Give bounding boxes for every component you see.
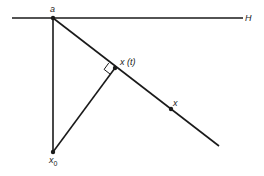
label-xt: x (t) (120, 58, 136, 67)
ray-from-a (53, 18, 219, 146)
label-x0: x0 (49, 156, 57, 167)
point-x0 (51, 150, 55, 154)
right-angle-mark (104, 63, 110, 74)
perpendicular-x0-xt (53, 68, 115, 152)
point-a (51, 16, 55, 20)
label-x: x (173, 99, 178, 108)
label-x0-subscript: 0 (54, 160, 58, 167)
diagram-canvas (0, 0, 264, 176)
label-a: a (50, 5, 55, 14)
point-xt (113, 66, 117, 70)
label-h: H (245, 14, 252, 23)
